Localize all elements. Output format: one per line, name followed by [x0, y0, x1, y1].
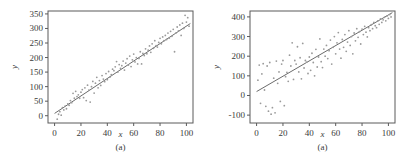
scatter-point	[269, 62, 271, 64]
scatter-point	[73, 97, 75, 99]
scatter-point	[364, 25, 366, 27]
scatter-point	[343, 46, 345, 48]
scatter-point	[160, 43, 162, 45]
scatter-point	[266, 65, 268, 67]
x-tick-label: 60	[129, 128, 139, 138]
scatter-point	[113, 70, 115, 72]
scatter-point	[128, 64, 130, 66]
scatter-point	[66, 108, 68, 110]
scatter-point	[182, 22, 184, 24]
scatter-point	[304, 60, 306, 62]
scatter-point	[351, 36, 353, 38]
scatter-point	[91, 86, 93, 88]
x-tick-label: 20	[76, 128, 86, 138]
scatter-point	[388, 18, 390, 20]
scatter-point	[59, 111, 61, 113]
scatter-point	[143, 55, 145, 57]
scatter-point	[347, 41, 349, 43]
scatter-point	[355, 40, 357, 42]
scatter-point	[67, 103, 69, 105]
scatter-point	[155, 45, 157, 47]
scatter-point	[116, 61, 118, 63]
scatter-point	[265, 105, 267, 107]
scatter-point	[376, 27, 378, 29]
scatter-point	[157, 46, 159, 48]
scatter-point	[270, 113, 272, 115]
scatter-point	[365, 31, 367, 33]
y-tick-label: 200	[232, 51, 246, 61]
y-tick-label: 150	[30, 67, 44, 77]
scatter-point	[273, 77, 275, 79]
scatter-point	[79, 97, 81, 99]
scatter-point	[60, 114, 62, 116]
scatter-point	[285, 76, 287, 78]
scatter-point	[117, 71, 119, 73]
scatter-point	[112, 68, 114, 70]
scatter-point	[80, 91, 82, 93]
panel-caption: (a)	[318, 142, 328, 152]
scatter-point	[163, 40, 165, 42]
scatter-point	[302, 43, 304, 45]
scatter-point	[335, 53, 337, 55]
scatter-point	[164, 35, 166, 37]
scatter-point	[105, 73, 107, 75]
scatter-point	[257, 79, 259, 81]
scatter-point	[386, 15, 388, 17]
scatter-point	[261, 73, 263, 75]
scatter-point	[308, 56, 310, 58]
scatter-point	[135, 57, 137, 59]
scatter-point	[133, 53, 135, 55]
scatter-point	[118, 64, 120, 66]
scatter-point	[323, 48, 325, 50]
x-tick-label: 60	[331, 128, 341, 138]
scatter-point	[120, 67, 122, 69]
scatter-point	[258, 64, 260, 66]
scatter-point	[101, 75, 103, 77]
scatter-point	[322, 67, 324, 69]
scatter-point	[333, 36, 335, 38]
scatter-point	[139, 51, 141, 53]
scatter-point	[373, 21, 375, 23]
scatter-point	[260, 102, 262, 104]
scatter-point	[95, 82, 97, 84]
scatter-point	[353, 32, 355, 34]
y-tick-label: 50	[34, 96, 44, 106]
y-axis-title: y	[9, 65, 19, 70]
scatter-point	[278, 71, 280, 73]
x-tick-label: 0	[254, 128, 259, 138]
scatter-point	[84, 87, 86, 89]
scatter-point	[281, 63, 283, 65]
y-tick-label: 100	[232, 71, 246, 81]
scatter-point	[147, 49, 149, 51]
scatter-plot-left: 050100150200250300350020406080100xy(a)	[0, 0, 202, 159]
scatter-point	[125, 62, 127, 64]
scatter-point	[366, 36, 368, 38]
scatter-point	[142, 53, 144, 55]
scatter-point	[159, 37, 161, 39]
scatter-point	[320, 61, 322, 63]
scatter-point	[348, 30, 350, 32]
scatter-point	[134, 61, 136, 63]
scatter-point	[141, 63, 143, 65]
scatter-point	[283, 105, 285, 107]
scatter-point	[146, 53, 148, 55]
scatter-point	[380, 18, 382, 20]
scatter-point	[178, 30, 180, 32]
scatter-point	[272, 107, 274, 109]
scatter-point	[318, 56, 320, 58]
scatter-point	[70, 100, 72, 102]
scatter-point	[170, 30, 172, 32]
scatter-point	[58, 113, 60, 115]
x-axis-title: x	[320, 129, 325, 139]
scatter-point	[102, 78, 104, 80]
scatter-point	[168, 37, 170, 39]
scatter-point	[294, 60, 296, 62]
scatter-point	[287, 80, 289, 82]
y-tick-label: 350	[30, 9, 44, 19]
scatter-point	[359, 31, 361, 33]
scatter-point	[174, 51, 176, 53]
scatter-point	[81, 89, 83, 91]
scatter-point	[303, 67, 305, 69]
scatter-point	[183, 28, 185, 30]
scatter-point	[291, 42, 293, 44]
